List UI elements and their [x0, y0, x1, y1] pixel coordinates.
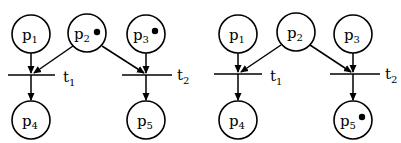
token-dot	[152, 28, 158, 34]
place-p1: p1	[219, 15, 257, 53]
token-dot	[359, 114, 365, 120]
transition-label: t1	[270, 67, 282, 87]
petri-net-after: t1 t2 p1 p2 p3 p4 p5	[214, 13, 397, 139]
place-p5: p5	[127, 101, 165, 139]
transition-label: t2	[177, 66, 189, 86]
transition-label: t2	[385, 65, 397, 85]
place-p5: p5	[334, 101, 372, 139]
petri-net-before: t1 t2 p1 p2 p3 p4 p5	[8, 14, 189, 139]
petri-net-diagram: t1 t2 p1 p2 p3 p4 p5	[0, 0, 401, 143]
token-dot	[94, 29, 100, 35]
place-p4: p4	[219, 101, 257, 139]
place-p2: p2	[277, 13, 315, 51]
place-p3: p3	[334, 15, 372, 53]
place-p3: p3	[127, 15, 165, 53]
place-p2: p2	[68, 14, 106, 52]
transition-label: t1	[63, 68, 75, 88]
place-p4: p4	[12, 101, 50, 139]
place-p1: p1	[12, 15, 50, 53]
